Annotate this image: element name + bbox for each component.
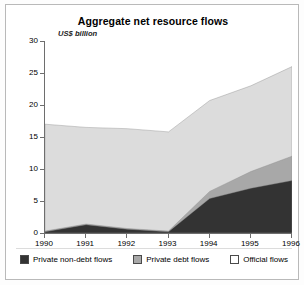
chart-figure: Aggregate net resource flows US$ billion… (0, 0, 304, 285)
y-tick-label: 15 (0, 133, 38, 141)
x-tick-mark (168, 234, 169, 238)
legend-item[interactable]: Private non-debt flows (20, 255, 112, 264)
x-tick-mark (85, 234, 86, 238)
chart-title: Aggregate net resource flows (6, 15, 300, 27)
y-tick-label: 5 (0, 197, 38, 205)
x-tick-label: 1995 (230, 240, 270, 248)
legend-separator (16, 248, 292, 249)
chart-legend: Private non-debt flowsPrivate debt flows… (20, 255, 288, 264)
legend-label: Official flows (243, 256, 288, 264)
legend-item[interactable]: Private debt flows (133, 255, 209, 264)
legend-label: Private debt flows (146, 256, 209, 264)
x-tick-label: 1990 (24, 240, 64, 248)
y-tick-label: 25 (0, 69, 38, 77)
legend-label: Private non-debt flows (33, 256, 112, 264)
x-tick-label: 1991 (65, 240, 105, 248)
x-tick-mark (250, 234, 251, 238)
x-tick-label: 1992 (106, 240, 146, 248)
x-tick-label: 1993 (148, 240, 188, 248)
legend-swatch (230, 255, 239, 264)
x-tick-label: 1994 (189, 240, 229, 248)
legend-swatch (20, 255, 29, 264)
y-tick-label: 10 (0, 165, 38, 173)
x-tick-label: 1996 (271, 240, 304, 248)
y-tick-label: 30 (0, 37, 38, 45)
plot-area (44, 41, 292, 234)
chart-frame: Aggregate net resource flows US$ billion… (5, 4, 299, 280)
legend-swatch (133, 255, 142, 264)
y-axis-title: US$ billion (58, 29, 97, 38)
legend-item[interactable]: Official flows (230, 255, 288, 264)
y-tick-label: 20 (0, 101, 38, 109)
x-tick-mark (44, 234, 45, 238)
x-tick-mark (209, 234, 210, 238)
y-tick-label: 0 (0, 229, 38, 237)
x-tick-mark (291, 234, 292, 238)
x-tick-mark (126, 234, 127, 238)
stacked-area-svg (45, 41, 292, 233)
